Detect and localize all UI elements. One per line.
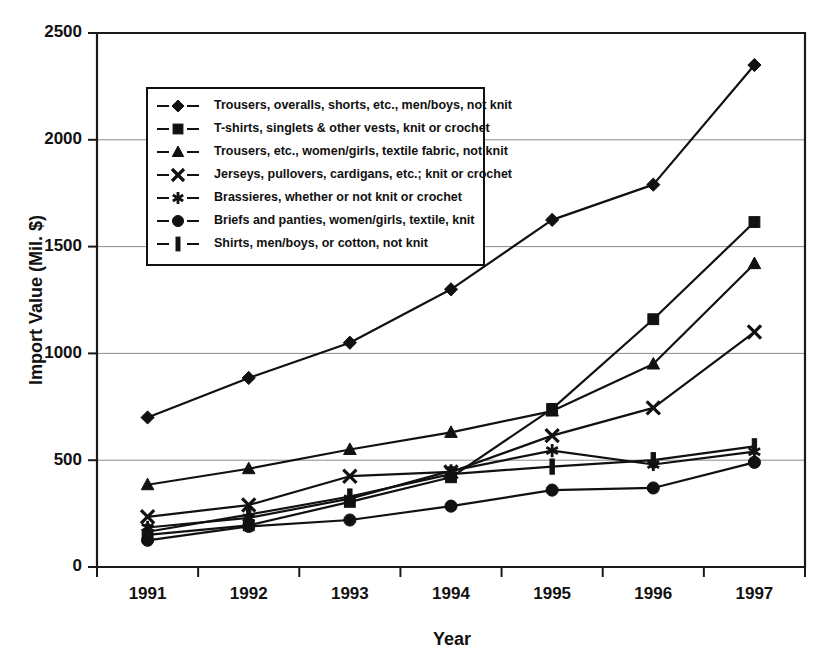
diamond-icon (242, 371, 255, 384)
square-icon (173, 124, 183, 134)
marker-circle-s5-p5 (647, 482, 659, 494)
x-tick-label-1995: 1995 (533, 584, 571, 603)
marker-circle-legend5 (172, 215, 183, 226)
x-tick-label-1992: 1992 (230, 584, 268, 603)
bar-icon (651, 453, 655, 468)
y-tick-label-500: 500 (54, 450, 82, 469)
marker-triangle-s2-p6 (748, 257, 761, 269)
marker-cross-s3-p4 (546, 429, 559, 442)
bar-icon (550, 459, 554, 474)
diamond-icon (444, 283, 457, 296)
square-icon (648, 314, 659, 325)
marker-cross-s3-p6 (748, 325, 761, 338)
series-3 (141, 325, 761, 523)
circle-icon (647, 482, 659, 494)
chart-legend: Trousers, overalls, shorts, etc., men/bo… (147, 88, 513, 265)
square-icon (749, 217, 760, 228)
marker-bar-s6-p2 (348, 489, 352, 504)
bar-icon (247, 507, 251, 522)
marker-circle-s5-p6 (748, 456, 760, 468)
circle-icon (546, 484, 558, 496)
marker-diamond-s0-p4 (546, 213, 559, 226)
x-tick-label-1994: 1994 (432, 584, 470, 603)
marker-bar-s6-p5 (651, 453, 655, 468)
series-line-2 (148, 264, 755, 485)
diamond-icon (343, 336, 356, 349)
circle-icon (445, 500, 457, 512)
marker-square-s1-p5 (648, 314, 659, 325)
marker-square-legend1 (173, 124, 183, 134)
y-axis-ticks (88, 33, 97, 567)
y-axis-title: Import Value (Mil. $) (26, 215, 46, 385)
diamond-icon (141, 411, 154, 424)
y-tick-label-2000: 2000 (44, 129, 82, 148)
bar-icon (752, 439, 756, 454)
bar-icon (145, 524, 149, 539)
x-tick-label-1996: 1996 (634, 584, 672, 603)
marker-bar-legend6 (176, 237, 180, 251)
bar-icon (348, 489, 352, 504)
bar-icon (176, 237, 180, 251)
import-value-line-chart: 05001000150020002500 1991199219931994199… (0, 0, 836, 656)
x-tick-label-1991: 1991 (129, 584, 167, 603)
y-tick-label-1000: 1000 (44, 343, 82, 362)
marker-square-s1-p6 (749, 217, 760, 228)
bar-icon (449, 466, 453, 481)
legend-label-5: Briefs and panties, women/girls, textile… (214, 213, 475, 227)
marker-bar-s6-p1 (247, 507, 251, 522)
marker-diamond-s0-p1 (242, 371, 255, 384)
x-axis-title: Year (433, 629, 471, 649)
y-tick-label-1500: 1500 (44, 236, 82, 255)
y-tick-label-0: 0 (73, 556, 82, 575)
marker-bar-s6-p0 (145, 524, 149, 539)
marker-diamond-s0-p2 (343, 336, 356, 349)
diamond-icon (546, 213, 559, 226)
marker-circle-s5-p4 (546, 484, 558, 496)
triangle-icon (748, 257, 761, 269)
x-axis-ticks (97, 567, 805, 577)
x-tick-label-1993: 1993 (331, 584, 369, 603)
circle-icon (344, 514, 356, 526)
legend-label-1: T-shirts, singlets & other vests, knit o… (214, 121, 491, 135)
y-axis-tick-labels: 05001000150020002500 (44, 22, 82, 575)
circle-icon (172, 215, 183, 226)
marker-cross-s3-p5 (647, 401, 660, 414)
x-tick-label-1997: 1997 (736, 584, 774, 603)
legend-label-2: Trousers, etc., women/girls, textile fab… (214, 144, 509, 158)
chart-canvas: 05001000150020002500 1991199219931994199… (0, 0, 836, 656)
legend-label-4: Brassieres, whether or not knit or croch… (214, 190, 463, 204)
x-axis-tick-labels: 1991199219931994199519961997 (129, 584, 774, 603)
circle-icon (748, 456, 760, 468)
marker-bar-s6-p3 (449, 466, 453, 481)
marker-diamond-s0-p0 (141, 411, 154, 424)
series-line-1 (148, 222, 755, 535)
legend-label-6: Shirts, men/boys, or cotton, not knit (214, 236, 429, 250)
y-tick-label-2500: 2500 (44, 22, 82, 41)
marker-bar-s6-p6 (752, 439, 756, 454)
series-6 (145, 439, 756, 540)
legend-label-0: Trousers, overalls, shorts, etc., men/bo… (214, 98, 513, 112)
marker-diamond-s0-p3 (444, 283, 457, 296)
marker-bar-s6-p4 (550, 459, 554, 474)
legend-label-3: Jerseys, pullovers, cardigans, etc.; kni… (214, 167, 513, 181)
series-line-3 (148, 332, 755, 517)
marker-circle-s5-p2 (344, 514, 356, 526)
marker-circle-s5-p3 (445, 500, 457, 512)
